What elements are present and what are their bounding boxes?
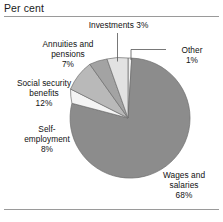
pie-chart-figure: Per cent Investments 3% Annuities and pe…	[0, 0, 223, 222]
footer-divider	[4, 209, 219, 210]
slice-label-wages-and-salaries: Wages and salaries 68%	[148, 170, 220, 201]
slice-label-investments: Investments 3%	[66, 20, 171, 30]
slice-label-social-security-benefits: Social security benefits 12%	[4, 78, 84, 109]
slice-label-other: Other 1%	[168, 45, 216, 65]
slice-label-self-employment: Self- employment 8%	[14, 124, 80, 155]
slice-label-annuities-and-pensions: Annuities and pensions 7%	[30, 39, 106, 70]
